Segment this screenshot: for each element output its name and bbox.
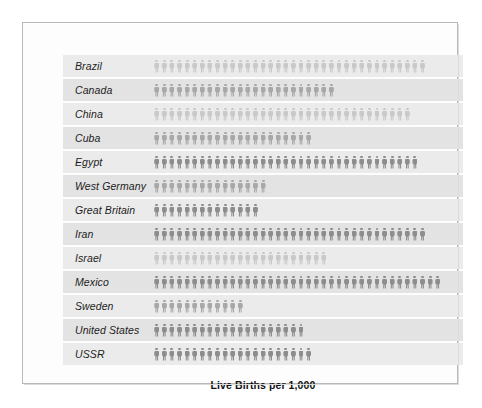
person-icon <box>153 107 161 121</box>
person-icon <box>183 251 191 265</box>
person-icon <box>320 107 328 121</box>
person-icon <box>176 83 184 97</box>
person-icon <box>153 203 161 217</box>
person-icon <box>434 275 442 289</box>
person-icon <box>206 203 214 217</box>
person-icon <box>199 347 207 361</box>
person-icon <box>206 83 214 97</box>
person-icon <box>305 155 313 169</box>
person-icon <box>366 59 374 73</box>
person-icon <box>221 251 229 265</box>
person-icon <box>282 323 290 337</box>
person-icon <box>373 155 381 169</box>
person-icon <box>252 179 260 193</box>
person-icon <box>320 227 328 241</box>
person-icon <box>290 155 298 169</box>
person-icon <box>259 59 267 73</box>
person-icon <box>244 251 252 265</box>
person-icon <box>191 299 199 313</box>
pictograph-row: Canada <box>63 79 463 101</box>
person-icon <box>206 179 214 193</box>
person-icon <box>305 131 313 145</box>
person-icon <box>199 155 207 169</box>
person-icon <box>366 275 374 289</box>
row-figures <box>153 223 463 245</box>
row-figures <box>153 199 463 221</box>
person-icon <box>312 275 320 289</box>
person-icon <box>244 347 252 361</box>
person-icon <box>176 203 184 217</box>
person-icon <box>176 227 184 241</box>
person-icon <box>221 131 229 145</box>
person-icon <box>161 179 169 193</box>
pictograph-row: Cuba <box>63 127 463 149</box>
person-icon <box>244 107 252 121</box>
person-icon <box>411 227 419 241</box>
person-icon <box>214 347 222 361</box>
person-icon <box>358 275 366 289</box>
person-icon <box>176 107 184 121</box>
person-icon <box>214 227 222 241</box>
person-icon <box>381 59 389 73</box>
person-icon <box>244 275 252 289</box>
person-icon <box>176 155 184 169</box>
person-icon <box>373 107 381 121</box>
person-icon <box>199 131 207 145</box>
person-icon <box>275 107 283 121</box>
person-icon <box>176 275 184 289</box>
person-icon <box>343 155 351 169</box>
person-icon <box>214 203 222 217</box>
person-icon <box>282 227 290 241</box>
person-icon <box>252 275 260 289</box>
person-icon <box>214 83 222 97</box>
person-icon <box>244 83 252 97</box>
row-label-brazil: Brazil <box>63 60 153 72</box>
row-label-sweden: Sweden <box>63 300 153 312</box>
person-icon <box>275 227 283 241</box>
person-icon <box>388 227 396 241</box>
person-icon <box>252 59 260 73</box>
person-icon <box>396 227 404 241</box>
person-icon <box>168 155 176 169</box>
person-icon <box>229 227 237 241</box>
person-icon <box>191 203 199 217</box>
person-icon <box>153 83 161 97</box>
person-icon <box>168 347 176 361</box>
person-icon <box>229 203 237 217</box>
person-icon <box>419 59 427 73</box>
person-icon <box>252 155 260 169</box>
person-icon <box>381 227 389 241</box>
person-icon <box>328 83 336 97</box>
person-icon <box>275 275 283 289</box>
person-icon <box>343 107 351 121</box>
person-icon <box>419 227 427 241</box>
person-icon <box>320 155 328 169</box>
person-icon <box>237 275 245 289</box>
person-icon <box>161 251 169 265</box>
row-label-united-states: United States <box>63 324 153 336</box>
person-icon <box>229 323 237 337</box>
person-icon <box>259 131 267 145</box>
person-icon <box>297 83 305 97</box>
person-icon <box>168 59 176 73</box>
person-icon <box>411 275 419 289</box>
person-icon <box>237 59 245 73</box>
person-icon <box>259 251 267 265</box>
row-label-canada: Canada <box>63 84 153 96</box>
person-icon <box>350 227 358 241</box>
person-icon <box>206 59 214 73</box>
person-icon <box>176 131 184 145</box>
person-icon <box>388 59 396 73</box>
person-icon <box>388 275 396 289</box>
person-icon <box>275 155 283 169</box>
person-icon <box>183 83 191 97</box>
person-icon <box>404 275 412 289</box>
person-icon <box>350 59 358 73</box>
person-icon <box>191 251 199 265</box>
person-icon <box>290 83 298 97</box>
row-label-ussr: USSR <box>63 348 153 360</box>
person-icon <box>404 227 412 241</box>
person-icon <box>244 203 252 217</box>
person-icon <box>366 155 374 169</box>
person-icon <box>237 155 245 169</box>
